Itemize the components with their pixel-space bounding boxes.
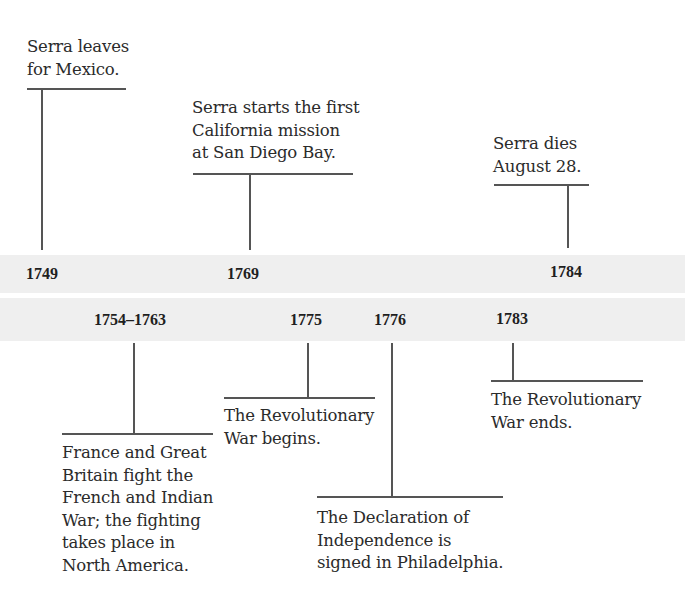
event-text-1775: The Revolutionary War begins. [224, 405, 374, 450]
event-bracket-1784 [494, 184, 589, 186]
event-bracket-1769 [193, 173, 353, 175]
year-label-1749: 1749 [26, 265, 58, 283]
event-connector-1769 [249, 173, 251, 250]
year-label-1776: 1776 [374, 311, 406, 329]
event-connector-1783 [512, 343, 514, 382]
event-bracket-1776 [317, 496, 503, 498]
year-label-1775: 1775 [290, 311, 322, 329]
event-text-1749: Serra leaves for Mexico. [27, 36, 129, 81]
event-connector-1784 [567, 184, 569, 248]
event-text-1784: Serra dies August 28. [493, 133, 581, 178]
year-label-1769: 1769 [227, 265, 259, 283]
event-connector-1749 [41, 88, 43, 250]
year-label-1783: 1783 [496, 310, 528, 328]
event-bracket-1783 [491, 380, 643, 382]
event-connector-1754-1763 [133, 343, 135, 435]
timeline-diagram: Serra leaves for Mexico. 1749 Serra star… [0, 0, 685, 603]
event-text-1776: The Declaration of Independence is signe… [317, 507, 503, 575]
event-text-1769: Serra starts the first California missio… [192, 97, 359, 165]
event-connector-1775 [307, 343, 309, 399]
event-bracket-1775 [224, 397, 375, 399]
event-text-1783: The Revolutionary War ends. [491, 389, 641, 434]
year-label-1754-1763: 1754–1763 [94, 311, 166, 329]
event-connector-1776 [391, 343, 393, 498]
timeline-band-top [0, 255, 685, 293]
event-text-1754-1763: France and Great Britain fight the Frenc… [62, 442, 213, 577]
year-label-1784: 1784 [550, 263, 582, 281]
event-bracket-1754-1763 [62, 433, 213, 435]
